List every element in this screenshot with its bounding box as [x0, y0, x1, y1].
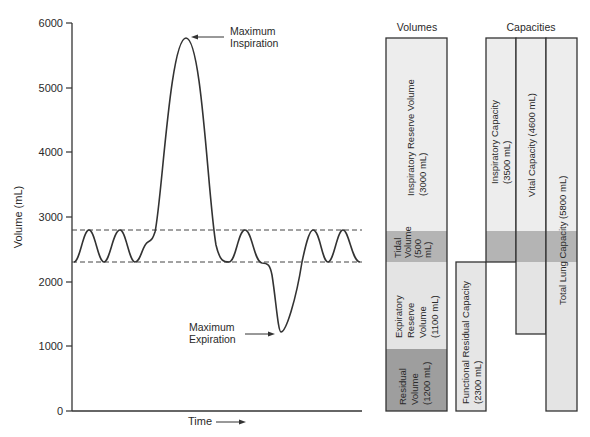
rv-label-1: Residual [397, 368, 408, 405]
max-inspiration-arrow-icon [191, 35, 224, 40]
max-expiration-label-2: Expiration [189, 333, 236, 345]
y-tick-5000: 5000 [39, 82, 63, 94]
erv-label-4: (1100 mL) [429, 295, 440, 338]
max-inspiration-label-2: Inspiration [230, 37, 279, 49]
erv-label-1: Expiratory [393, 295, 404, 338]
y-tick-3000: 3000 [39, 211, 63, 223]
volumes-column [386, 38, 447, 411]
frc-label-1: Functional Residual Capacity [460, 281, 471, 404]
ic-label-2: (3500 mL) [501, 141, 512, 184]
frc-label-2: (2300 mL) [472, 361, 483, 404]
capacities-header: Capacities [506, 21, 555, 33]
irv-segment [386, 38, 447, 231]
rv-label-3: (1200 mL) [421, 362, 432, 405]
erv-label-3: Volume [417, 306, 428, 338]
vc-label: Vital Capacity (4600 mL) [526, 93, 537, 197]
ic-label-1: Inspiratory Capacity [489, 100, 500, 184]
irv-label-2: (3000 mL) [417, 153, 428, 196]
spirogram-chart: 6000 5000 4000 3000 2000 1000 0 Volume (… [12, 17, 362, 427]
tlc-label: Total Lung Capacity (5800 mL) [557, 176, 568, 305]
max-inspiration-label-1: Maximum [230, 25, 276, 37]
max-expiration-label-1: Maximum [189, 321, 235, 333]
tv-label-4: mL) [422, 242, 433, 258]
max-expiration-arrow-icon [245, 332, 275, 337]
y-tick-1000: 1000 [39, 340, 63, 352]
volumes-header: Volumes [397, 21, 437, 33]
time-arrow-icon [216, 420, 246, 425]
irv-label-1: Inspiratory Reserve Volume [405, 79, 416, 196]
y-tick-2000: 2000 [39, 276, 63, 288]
y-axis-label: Volume (mL) [12, 186, 24, 248]
erv-label-2: Reserve [405, 303, 416, 338]
y-tick-6000: 6000 [39, 17, 63, 29]
spirogram-curve [74, 38, 360, 332]
x-axis-label: Time [188, 415, 212, 427]
lung-volume-bars: Volumes Capacities [386, 21, 577, 411]
y-tick-0: 0 [57, 405, 63, 417]
rv-label-2: Volume [409, 373, 420, 405]
lung-volumes-diagram: 6000 5000 4000 3000 2000 1000 0 Volume (… [0, 0, 590, 437]
y-tick-4000: 4000 [39, 146, 63, 158]
y-ticks [66, 23, 72, 411]
